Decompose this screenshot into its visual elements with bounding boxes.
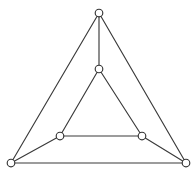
graph-vertex-outer-bottom-left: [7, 159, 15, 167]
graph-canvas: [0, 0, 196, 177]
graph-vertex-inner-bottom-right: [138, 132, 146, 140]
graph-vertex-outer-top: [95, 9, 103, 17]
graph-vertex-inner-top: [95, 65, 103, 73]
graph-vertex-outer-bottom-right: [182, 159, 190, 167]
graph-figure: [0, 0, 196, 177]
graph-vertex-inner-bottom-left: [56, 132, 64, 140]
